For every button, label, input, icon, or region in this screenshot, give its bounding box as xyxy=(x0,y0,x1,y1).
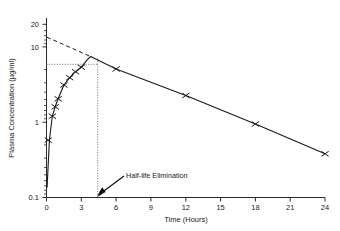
data-point-marker xyxy=(55,96,62,101)
x-tick-label-0: 0 xyxy=(44,203,48,212)
plasma-concentration-chart: 20 10 1 0.1 0 3 6 9 12 15 18 21 24 Time … xyxy=(0,0,340,231)
data-point-marker xyxy=(45,138,52,143)
x-axis-title: Time (Hours) xyxy=(164,215,208,224)
data-point-marker xyxy=(321,151,328,156)
y-tick-label-0.1: 0.1 xyxy=(29,193,39,202)
data-point-marker xyxy=(182,93,189,98)
data-point-marker xyxy=(252,122,259,127)
y-tick-label-10: 10 xyxy=(31,43,39,52)
x-tick-label-12: 12 xyxy=(182,203,190,212)
data-point-marker xyxy=(78,65,85,70)
y-tick-label-1: 1 xyxy=(35,118,39,127)
data-point-marker xyxy=(113,67,120,72)
y-axis-title: Plasma Concentration (µg/ml) xyxy=(7,58,16,158)
x-tick-label-6: 6 xyxy=(114,203,118,212)
data-point-marker xyxy=(66,75,73,80)
x-tick-label-18: 18 xyxy=(251,203,259,212)
x-axis-ticks xyxy=(47,198,326,202)
x-tick-label-9: 9 xyxy=(149,203,153,212)
x-tick-label-21: 21 xyxy=(286,203,294,212)
data-point-markers xyxy=(45,65,329,157)
concentration-curve xyxy=(47,57,325,188)
x-tick-label-3: 3 xyxy=(79,203,83,212)
y-tick-label-20: 20 xyxy=(31,20,39,29)
half-life-annotation-label: Half-life Elimination xyxy=(126,171,188,180)
x-tick-label-24: 24 xyxy=(321,203,329,212)
extrapolation-line xyxy=(47,37,93,57)
chart-canvas: 20 10 1 0.1 0 3 6 9 12 15 18 21 24 Time … xyxy=(0,0,340,231)
x-tick-label-15: 15 xyxy=(216,203,224,212)
data-point-marker xyxy=(60,83,67,88)
half-life-annotation-arrow xyxy=(97,176,124,197)
